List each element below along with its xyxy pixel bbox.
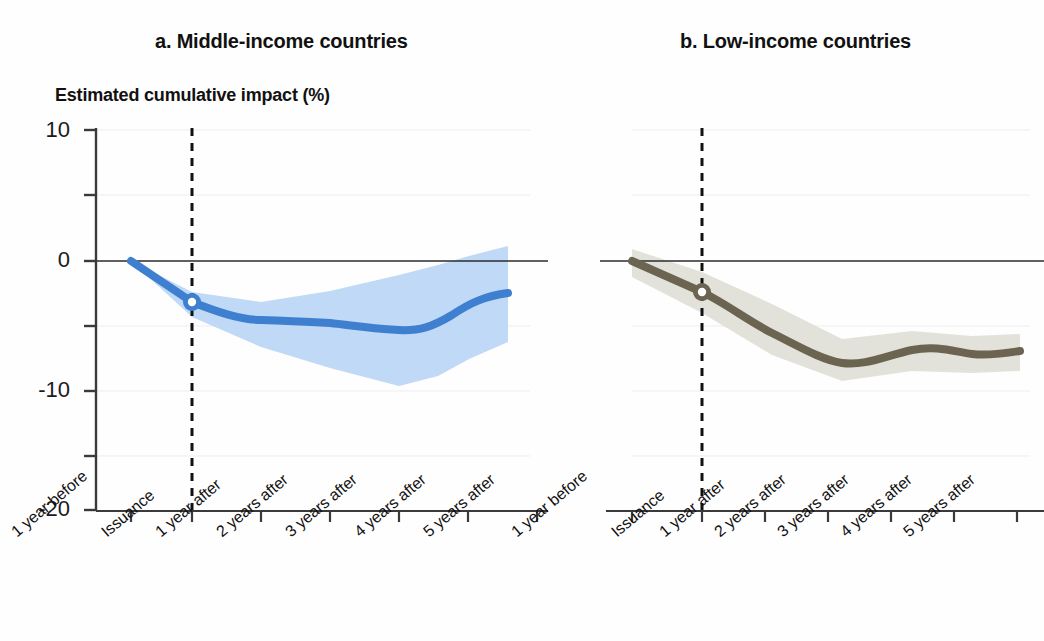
plot-area-low-income bbox=[560, 0, 1044, 641]
panel-low-income: b. Low-income countries bbox=[560, 0, 1044, 641]
panel-middle-income: a. Middle-income countries Estimated cum… bbox=[0, 0, 560, 641]
issuance-marker-inner-a bbox=[188, 298, 196, 306]
y-tick-label-0: 0 bbox=[10, 247, 70, 273]
issuance-marker-inner-b bbox=[698, 288, 706, 296]
plot-area-middle-income bbox=[0, 0, 560, 641]
figure-canvas: a. Middle-income countries Estimated cum… bbox=[0, 0, 1044, 641]
y-tick-label-neg10: -10 bbox=[10, 377, 70, 403]
y-axis-ticks-a bbox=[84, 130, 96, 510]
y-tick-label-10: 10 bbox=[10, 117, 70, 143]
